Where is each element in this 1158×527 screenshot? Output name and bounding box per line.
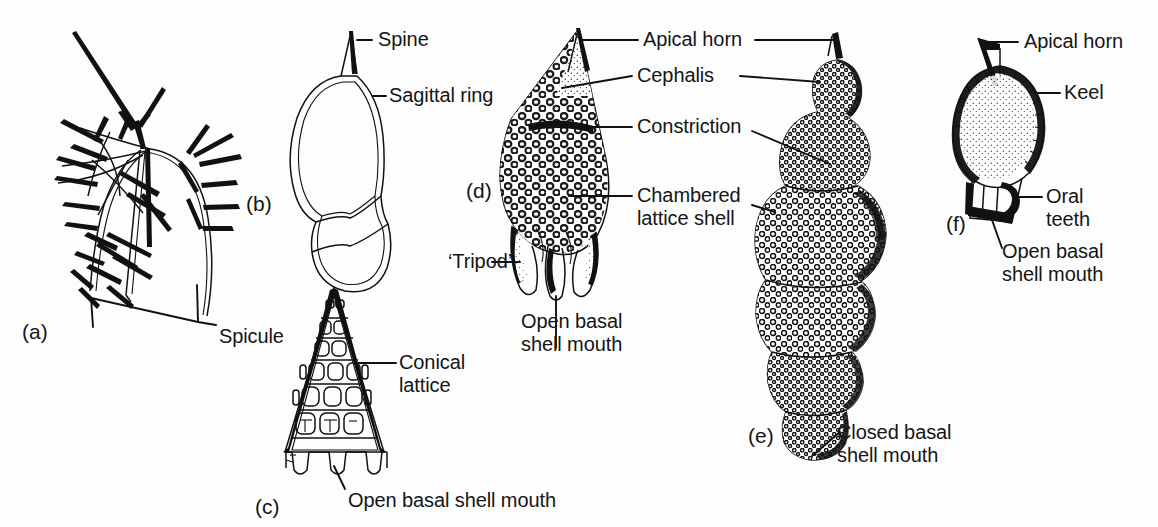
label-spine: Spine <box>378 28 429 51</box>
label-apical-horn-center: Apical horn <box>643 28 742 51</box>
panel-tag-a: (a) <box>22 320 48 343</box>
label-open-basal-f-line1: Open basal <box>1002 240 1103 263</box>
panel-e-artwork <box>755 32 886 460</box>
label-chambered-lattice-line2: lattice shell <box>637 207 735 230</box>
panel-tag-b: (b) <box>246 192 272 215</box>
panel-c-artwork <box>283 288 387 474</box>
label-open-basal-shell-mouth-c: Open basal shell mouth <box>348 489 556 512</box>
label-keel: Keel <box>1064 81 1104 104</box>
label-tripod: ‘Tripod’ <box>448 250 512 273</box>
label-open-basal-d-line2: shell mouth <box>521 333 622 356</box>
label-oral-teeth-line2: teeth <box>1046 208 1090 231</box>
panel-tag-d: (d) <box>466 179 492 202</box>
label-conical-lattice-line2: lattice <box>399 374 451 397</box>
label-sagittal-ring: Sagittal ring <box>389 84 493 107</box>
radiolarian-figure: (a) (b) (c) (d) (e) (f) Spicule Spine Sa… <box>0 0 1158 527</box>
panel-tag-e: (e) <box>748 424 774 447</box>
label-chambered-lattice-line1: Chambered <box>637 184 741 207</box>
label-closed-basal-line1: Closed basal <box>837 421 951 444</box>
label-open-basal-d-line1: Open basal <box>521 310 622 333</box>
panel-tag-f: (f) <box>946 212 966 235</box>
label-apical-horn-right: Apical horn <box>1024 30 1123 53</box>
label-conical-lattice-line1: Conical <box>399 351 465 374</box>
label-oral-teeth-line1: Oral <box>1046 185 1083 208</box>
label-open-basal-f-line2: shell mouth <box>1002 263 1103 286</box>
label-spicule: Spicule <box>219 325 284 348</box>
panel-b-artwork <box>290 31 391 292</box>
panel-tag-c: (c) <box>255 495 280 518</box>
label-cephalis: Cephalis <box>637 64 714 87</box>
label-closed-basal-line2: shell mouth <box>837 444 938 467</box>
label-constriction: Constriction <box>637 115 741 138</box>
figure-artwork <box>0 0 1158 527</box>
panel-a-artwork <box>54 31 242 327</box>
